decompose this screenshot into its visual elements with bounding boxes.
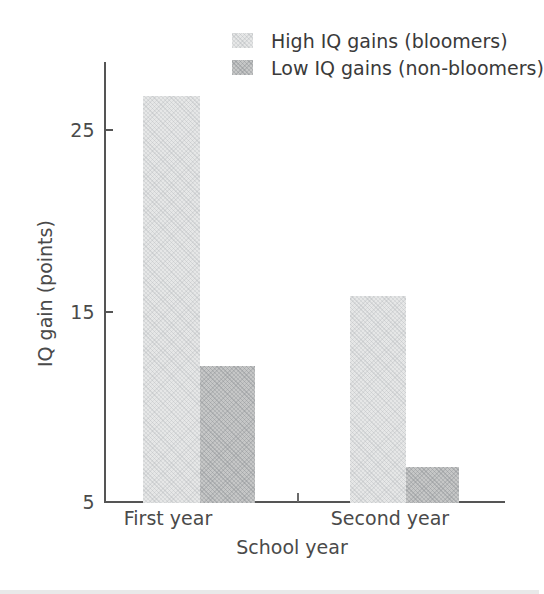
x-tick-label-first-year: First year [98, 507, 238, 529]
legend-label-bloomers: High IQ gains (bloomers) [271, 30, 508, 52]
y-tick-label-15: 15 [70, 301, 95, 323]
y-axis-title: IQ gain (points) [34, 220, 56, 367]
bar-bloomers-first-year [143, 96, 200, 503]
bar-bloomers-second-year [350, 296, 406, 503]
plot-area [104, 62, 504, 503]
x-axis-title: School year [0, 536, 539, 558]
bar-non-bloomers-second-year [406, 467, 459, 503]
y-tick-label-5: 5 [83, 491, 95, 513]
page-scan-edge [0, 590, 539, 594]
bar-non-bloomers-first-year [200, 366, 255, 503]
legend-entry-bloomers: High IQ gains (bloomers) [232, 27, 544, 54]
x-tick-label-second-year: Second year [310, 507, 470, 529]
y-tick-label-25: 25 [70, 119, 95, 141]
legend-swatch-light-icon [232, 33, 253, 48]
